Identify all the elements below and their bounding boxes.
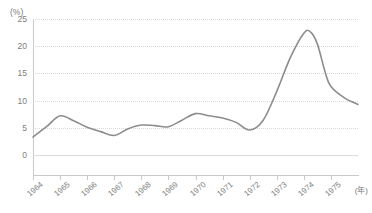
y-tick-label-25: 25 [5, 14, 27, 24]
x-tick-1968 [141, 175, 142, 180]
x-tick-1971 [223, 175, 224, 180]
series-path [33, 30, 358, 137]
y-tick-label-5: 5 [5, 123, 27, 133]
x-axis-unit-label: (年) [355, 184, 368, 195]
x-tick-1972 [250, 175, 251, 180]
y-tick-label-20: 20 [5, 41, 27, 51]
x-tick-label-1966: 1966 [75, 180, 99, 202]
x-tick-1964 [33, 175, 34, 180]
x-tick-label-1973: 1973 [264, 180, 288, 202]
x-tick-label-1970: 1970 [183, 180, 207, 202]
line-chart: (%) 2520151050 1964196519661967196819691… [0, 0, 372, 213]
x-tick-label-1974: 1974 [291, 180, 315, 202]
x-tick-1965 [60, 175, 61, 180]
x-tick-1969 [168, 175, 169, 180]
y-tick-label-15: 15 [5, 68, 27, 78]
y-tick-label-10: 10 [5, 96, 27, 106]
x-tick-label-1967: 1967 [102, 180, 126, 202]
x-tick-1974 [304, 175, 305, 180]
x-tick-label-1964: 1964 [21, 180, 45, 202]
x-tick-1973 [277, 175, 278, 180]
series-line [33, 19, 358, 155]
x-tick-1966 [87, 175, 88, 180]
x-tick-1967 [114, 175, 115, 180]
gridline-0 [33, 155, 358, 156]
x-tick-label-1968: 1968 [129, 180, 153, 202]
x-tick-1975 [331, 175, 332, 180]
x-tick-1970 [196, 175, 197, 180]
x-tick-label-1969: 1969 [156, 180, 180, 202]
x-tick-label-1971: 1971 [210, 180, 234, 202]
x-tick-label-1972: 1972 [237, 180, 261, 202]
x-tick-label-1965: 1965 [48, 180, 72, 202]
plot-area [33, 19, 358, 155]
x-tick-label-1975: 1975 [319, 180, 343, 202]
y-tick-label-0: 0 [5, 150, 27, 160]
